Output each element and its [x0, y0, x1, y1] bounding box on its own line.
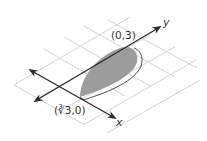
x-axis-label: x — [115, 116, 123, 129]
point-label-0-3: (0,3) — [111, 29, 136, 41]
y-axis-label: y — [162, 16, 170, 29]
diagram-canvas: y x (0,3) (∛3,0) — [0, 0, 207, 141]
isometric-figure: y x (0,3) (∛3,0) — [0, 0, 207, 141]
point-label-cuberoot3-0: (∛3,0) — [54, 104, 86, 116]
shaded-region — [80, 47, 137, 97]
